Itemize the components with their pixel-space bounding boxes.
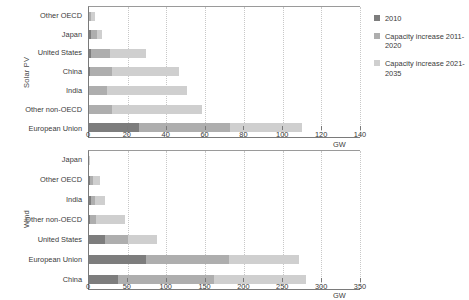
bar-segment <box>96 215 125 224</box>
stacked-bar <box>89 215 188 224</box>
x-axis-tick-labels-solar-pv: 020406080100120140 <box>88 130 360 142</box>
axis-tick-label: 60 <box>200 130 208 139</box>
axis-tick-label: 120 <box>315 130 327 139</box>
bar-segment <box>110 49 145 58</box>
stacked-bar <box>89 105 264 114</box>
x-axis-unit-solar-pv: GW <box>333 140 346 149</box>
bar-segment <box>89 86 106 95</box>
gridline <box>360 7 362 137</box>
stacked-bar <box>89 49 213 58</box>
bar-segment <box>229 255 299 264</box>
axis-tick-label: 100 <box>160 282 172 291</box>
bar-row <box>89 86 360 95</box>
gridline <box>360 151 362 289</box>
category-label: China <box>0 276 86 283</box>
bar-row <box>89 235 360 244</box>
legend-item[interactable]: Capacity increase 2011-2020 <box>374 32 469 51</box>
chart-panel-wind: Wind JapanOther OECDIndiaOther non-OECDU… <box>0 150 360 290</box>
bar-row <box>89 196 360 205</box>
bar-segment <box>91 12 95 21</box>
category-label: China <box>0 68 86 75</box>
axis-tick-label: 0 <box>86 130 90 139</box>
legend-item[interactable]: Capacity increase 2021-2035 <box>374 59 469 78</box>
chart-panel-solar-pv: Solar PV Other OECDJapanUnited StatesChi… <box>0 6 360 138</box>
legend-swatch-icon <box>374 15 380 21</box>
bar-row <box>89 49 360 58</box>
bar-segment <box>112 67 179 76</box>
stacked-bar <box>89 196 155 205</box>
axis-tick-label: 80 <box>239 130 247 139</box>
plot-area-wind <box>88 150 360 290</box>
category-label: Other OECD <box>0 12 86 19</box>
category-label: Other non-OECD <box>0 106 86 113</box>
bar-segment <box>112 105 202 114</box>
axis-tick-label: 300 <box>315 282 327 291</box>
axis-tick-label: 0 <box>86 282 90 291</box>
bar-rows-solar-pv <box>89 7 360 137</box>
axis-tick-label: 200 <box>237 282 249 291</box>
category-label: Japan <box>0 31 86 38</box>
bar-segment <box>107 86 187 95</box>
bar-segment <box>97 30 103 39</box>
bar-segment <box>95 196 105 205</box>
axis-tick-label: 40 <box>162 130 170 139</box>
stacked-bar <box>89 176 144 185</box>
legend-item[interactable]: 2010 <box>374 14 469 24</box>
x-axis-tick-labels-wind: 050100150200250300350 <box>88 282 360 294</box>
category-label: Other OECD <box>0 176 86 183</box>
bar-row <box>89 105 360 114</box>
category-labels-wind: JapanOther OECDIndiaOther non-OECDUnited… <box>0 150 86 290</box>
x-axis-unit-wind: GW <box>333 291 346 300</box>
bar-row <box>89 67 360 76</box>
category-label: Japan <box>0 156 86 163</box>
category-label: European Union <box>0 256 86 263</box>
stacked-bar <box>89 255 327 264</box>
bar-row <box>89 30 360 39</box>
category-label: European Union <box>0 125 86 132</box>
axis-tick-label: 150 <box>198 282 210 291</box>
bar-segment <box>93 176 100 185</box>
axis-tick-label: 140 <box>354 130 366 139</box>
bar-segment <box>90 67 112 76</box>
bar-segment <box>89 156 90 165</box>
category-label: Other non-OECD <box>0 216 86 223</box>
bar-segment <box>89 105 111 114</box>
category-label: United States <box>0 236 86 243</box>
bar-rows-wind <box>89 151 360 289</box>
legend-swatch-icon <box>374 60 380 66</box>
chart-legend: 2010Capacity increase 2011-2020Capacity … <box>374 14 469 86</box>
axis-tick-label: 250 <box>276 282 288 291</box>
stacked-bar <box>89 67 245 76</box>
bar-row <box>89 156 360 165</box>
bar-row <box>89 12 360 21</box>
axis-tick-label: 50 <box>123 282 131 291</box>
stacked-bar <box>89 12 130 21</box>
category-label: India <box>0 87 86 94</box>
bar-segment <box>89 235 105 244</box>
stacked-bar <box>89 156 104 165</box>
stacked-bar <box>89 235 225 244</box>
stacked-bar <box>89 86 252 95</box>
axis-tick-label: 350 <box>354 282 366 291</box>
axis-tick-label: 100 <box>276 130 288 139</box>
legend-swatch-icon <box>374 33 380 39</box>
axis-tick-label: 20 <box>123 130 131 139</box>
bar-segment <box>146 255 228 264</box>
category-labels-solar-pv: Other OECDJapanUnited StatesChinaIndiaOt… <box>0 6 86 138</box>
legend-label: Capacity increase 2011-2020 <box>385 32 469 51</box>
plot-area-solar-pv <box>88 6 360 138</box>
stacked-bar <box>89 30 149 39</box>
bar-segment <box>105 235 129 244</box>
bar-row <box>89 255 360 264</box>
bar-segment <box>91 49 110 58</box>
category-label: United States <box>0 49 86 56</box>
legend-label: 2010 <box>385 14 401 24</box>
bar-row <box>89 215 360 224</box>
category-label: India <box>0 196 86 203</box>
bar-segment <box>89 255 146 264</box>
bar-row <box>89 176 360 185</box>
bar-segment <box>128 235 157 244</box>
legend-label: Capacity increase 2021-2035 <box>385 59 469 78</box>
